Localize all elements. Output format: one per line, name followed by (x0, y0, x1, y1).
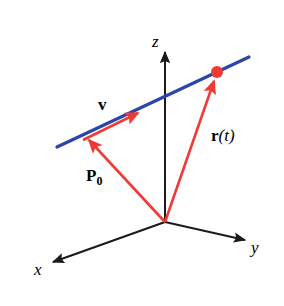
vector-v-label: v (98, 96, 107, 113)
y-axis (165, 222, 245, 240)
x-axis-label: x (34, 261, 42, 278)
diagram-canvas (0, 0, 284, 306)
vector-rt-label: r(t) (211, 127, 235, 144)
vector-line-diagram: z y x v P0 r(t) (0, 0, 284, 306)
vector-rt (165, 81, 214, 222)
vector-p0-label: P0 (86, 167, 102, 187)
vector-p0-label-base: P (86, 166, 96, 185)
x-axis (53, 222, 165, 262)
point-on-line (211, 66, 223, 78)
vector-p0-label-subscript: 0 (96, 174, 102, 188)
vector-rt-label-base: r (211, 126, 219, 145)
y-axis-label: y (251, 239, 259, 256)
z-axis-label: z (152, 33, 159, 50)
vector-v (83, 113, 138, 140)
axis-group (53, 52, 245, 262)
vector-rt-label-argument: (t) (219, 126, 235, 145)
